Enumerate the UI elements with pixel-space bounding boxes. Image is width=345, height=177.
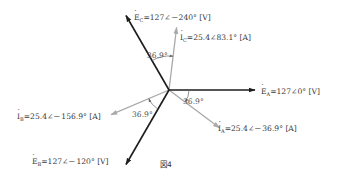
- value: =127∠－240° [V]: [143, 13, 210, 22]
- svg-text:EA=127∠0° [V]: EA=127∠0° [V]: [261, 87, 320, 97]
- phasor-current-c: [169, 28, 177, 91]
- dot-mark: ·: [219, 117, 221, 126]
- svg-text:IA=25.4∠－36.9° [A]: IA=25.4∠－36.9° [A]: [218, 124, 297, 134]
- dot-mark: ·: [181, 26, 183, 35]
- dot-mark: ·: [18, 105, 20, 114]
- value: =127∠0° [V]: [270, 87, 320, 96]
- phasor-current-a: [169, 90, 219, 128]
- phasor-voltage-b: [126, 90, 169, 165]
- label-voltage-b: EB=127∠－120° [V] ·: [32, 150, 109, 167]
- phasor-diagram: 36.9° 36.9° 36.9° EC=127∠－240° [V] · IC=…: [0, 0, 345, 177]
- angle-label-a: 36.9°: [183, 97, 204, 106]
- value: =25.4∠－36.9° [A]: [225, 124, 297, 133]
- label-current-c: IC=25.4∠83.1° [A] ·: [180, 26, 251, 43]
- svg-text:EC=127∠－240° [V]: EC=127∠－240° [V]: [134, 13, 211, 23]
- svg-text:IB=25.4∠－156.9° [A]: IB=25.4∠－156.9° [A]: [17, 112, 101, 122]
- svg-text:IC=25.4∠83.1° [A]: IC=25.4∠83.1° [A]: [180, 33, 251, 43]
- angle-label-b: 36.9°: [132, 110, 153, 119]
- dot-mark: ·: [134, 6, 136, 15]
- angle-arc-b: [149, 99, 158, 110]
- angle-label-c: 36.9°: [147, 51, 168, 60]
- label-voltage-c: EC=127∠－240° [V] ·: [134, 6, 211, 23]
- label-voltage-a: EA=127∠0° [V] ·: [261, 80, 320, 97]
- dot-mark: ·: [261, 80, 263, 89]
- value: =25.4∠－156.9° [A]: [24, 112, 101, 121]
- dot-mark: ·: [32, 150, 34, 159]
- label-current-b: IB=25.4∠－156.9° [A] ·: [17, 105, 101, 122]
- figure-caption: 図4: [160, 160, 172, 169]
- value: =25.4∠83.1° [A]: [187, 33, 251, 42]
- value: =127∠－120° [V]: [41, 157, 108, 166]
- label-current-a: IA=25.4∠－36.9° [A] ·: [218, 117, 297, 134]
- svg-text:EB=127∠－120° [V]: EB=127∠－120° [V]: [32, 157, 109, 167]
